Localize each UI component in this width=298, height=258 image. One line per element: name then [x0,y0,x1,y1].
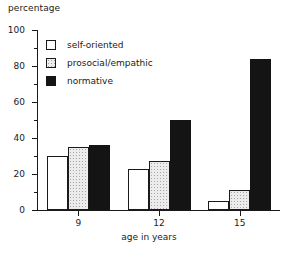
bar-chart: percentage 020406080100 91215 self-orien… [0,0,298,258]
x-tick-label: 15 [234,219,245,228]
legend-swatch-icon [46,40,56,50]
y-tick-major: 60 [32,102,37,103]
y-tick-minor [34,192,37,193]
bar-self-oriented-12 [128,169,149,210]
y-axis-title: percentage [8,3,60,13]
legend-item: normative [46,72,153,90]
y-tick-major: 0 [32,210,37,211]
x-tick [159,210,160,216]
bar-prosocial-empathic-9 [68,147,89,210]
y-tick-minor [34,84,37,85]
y-tick-label: 20 [14,170,25,179]
legend-label: prosocial/empathic [67,58,153,68]
bar-normative-15 [250,59,271,210]
legend-label: normative [67,76,113,86]
legend-label: self-oriented [67,40,124,50]
y-tick-minor [34,48,37,49]
y-tick-major: 40 [32,138,37,139]
legend: self-orientedprosocial/empathicnormative [46,36,153,90]
legend-item: prosocial/empathic [46,54,153,72]
y-tick-label: 80 [14,62,25,71]
y-tick-label: 60 [14,98,25,107]
bar-self-oriented-9 [47,156,68,210]
legend-swatch-icon [46,58,56,68]
y-tick-label: 0 [19,206,25,215]
y-tick-major: 100 [32,30,37,31]
x-tick [78,210,79,216]
y-tick-label: 100 [8,26,25,35]
y-tick-label: 40 [14,134,25,143]
bar-normative-9 [89,145,110,210]
y-tick-minor [34,156,37,157]
bar-self-oriented-15 [208,201,229,210]
x-tick [240,210,241,216]
y-tick-major: 80 [32,66,37,67]
bar-prosocial-empathic-12 [149,161,170,210]
x-tick-label: 12 [153,219,164,228]
x-tick-label: 9 [75,219,81,228]
y-tick-minor [34,120,37,121]
legend-swatch-icon [46,76,56,86]
bar-prosocial-empathic-15 [229,190,250,210]
bar-normative-12 [170,120,191,210]
legend-item: self-oriented [46,36,153,54]
y-tick-major: 20 [32,174,37,175]
x-axis-title: age in years [0,232,298,242]
